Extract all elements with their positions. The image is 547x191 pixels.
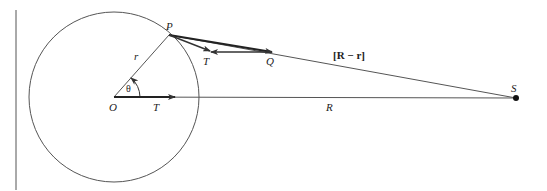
tidal-force-diagram: P r θ O T T Q [R − r] R S (0, 0, 547, 191)
label-O: O (109, 101, 117, 113)
label-S: S (511, 82, 517, 94)
line-radius-r (114, 35, 169, 97)
label-theta: θ (126, 83, 131, 94)
label-R: R (325, 101, 333, 113)
label-R-minus-r: [R − r] (333, 49, 365, 61)
label-P: P (165, 20, 173, 32)
label-Q: Q (266, 55, 274, 67)
label-T-center: T (153, 101, 160, 113)
label-r: r (134, 50, 139, 62)
theta-arc (131, 78, 140, 97)
label-T-top: T (203, 55, 210, 67)
point-S (513, 95, 519, 101)
